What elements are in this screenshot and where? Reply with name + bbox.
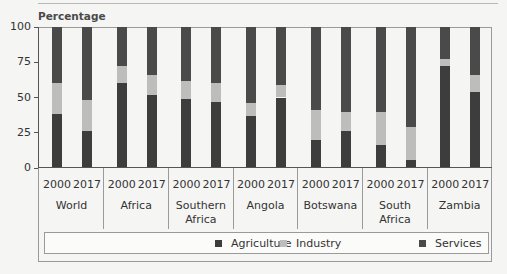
bar-segment-industry bbox=[147, 75, 157, 95]
bar-segment-industry bbox=[341, 112, 351, 132]
bar-segment-services bbox=[276, 27, 286, 85]
bar-segment-industry bbox=[82, 100, 92, 131]
bar-segment-industry bbox=[181, 81, 191, 99]
bar-segment-industry bbox=[276, 85, 286, 98]
year-label: 2000 bbox=[42, 178, 72, 191]
legend-item-industry: Industry bbox=[280, 237, 341, 250]
y-axis-title: Percentage bbox=[38, 10, 106, 22]
services-swatch-icon bbox=[419, 240, 426, 247]
bar-segment-services bbox=[147, 27, 157, 75]
y-tick bbox=[34, 132, 38, 133]
legend-label: Services bbox=[435, 237, 481, 250]
bar-segment-industry bbox=[440, 59, 450, 66]
legend: Agriculture Industry Services bbox=[44, 232, 489, 254]
bar-segment-services bbox=[246, 27, 256, 103]
bar-segment-agriculture bbox=[147, 95, 157, 168]
year-label: 2000 bbox=[236, 178, 266, 191]
bar-segment-services bbox=[440, 27, 450, 59]
bar-segment-services bbox=[211, 27, 221, 83]
year-label: 2017 bbox=[460, 178, 490, 191]
bar-segment-services bbox=[406, 27, 416, 127]
y-tick bbox=[34, 97, 38, 98]
year-label: 2017 bbox=[201, 178, 231, 191]
bar-segment-services bbox=[470, 27, 480, 75]
bar-segment-agriculture bbox=[211, 102, 221, 168]
bar-segment-agriculture bbox=[52, 114, 62, 168]
y-tick-label: 50 bbox=[0, 92, 31, 104]
bar-segment-agriculture bbox=[311, 140, 321, 168]
bar-segment-agriculture bbox=[117, 83, 127, 168]
legend-item-services: Services bbox=[419, 237, 481, 250]
bar-segment-agriculture bbox=[246, 116, 256, 168]
year-label: 2017 bbox=[72, 178, 102, 191]
agriculture-swatch-icon bbox=[215, 240, 222, 247]
y-tick-label: 100 bbox=[0, 21, 31, 33]
plot-area bbox=[39, 27, 492, 168]
bar-segment-agriculture bbox=[470, 92, 480, 168]
top-rule bbox=[38, 3, 498, 4]
industry-swatch-icon bbox=[280, 240, 287, 247]
group-label-southern-africa: SouthernAfrica bbox=[169, 199, 233, 227]
y-tick-label: 25 bbox=[0, 127, 31, 139]
group-label-zambia: Zambia bbox=[428, 199, 492, 213]
bar-segment-agriculture bbox=[376, 145, 386, 168]
group-label-botswana: Botswana bbox=[298, 199, 362, 213]
year-label: 2000 bbox=[430, 178, 460, 191]
bar-segment-industry bbox=[211, 83, 221, 101]
bar-segment-industry bbox=[117, 66, 127, 83]
bar-segment-industry bbox=[246, 103, 256, 116]
bar-segment-agriculture bbox=[440, 66, 450, 168]
bar-segment-agriculture bbox=[276, 98, 286, 169]
y-axis bbox=[38, 27, 39, 169]
y-tick bbox=[34, 27, 38, 28]
group-label-angola: Angola bbox=[234, 199, 298, 213]
group-label-africa: Africa bbox=[104, 199, 168, 213]
bar-segment-agriculture bbox=[82, 131, 92, 168]
year-label: 2017 bbox=[396, 178, 426, 191]
year-label: 2000 bbox=[366, 178, 396, 191]
bar-segment-services bbox=[376, 27, 386, 112]
bar-segment-industry bbox=[52, 83, 62, 114]
bar-segment-industry bbox=[376, 112, 386, 146]
bar-segment-services bbox=[82, 27, 92, 100]
bar-segment-services bbox=[52, 27, 62, 83]
group-label-world: World bbox=[40, 199, 104, 213]
bar-segment-services bbox=[181, 27, 191, 81]
bar-segment-agriculture bbox=[341, 131, 351, 168]
bar-segment-industry bbox=[311, 110, 321, 140]
year-label: 2017 bbox=[137, 178, 167, 191]
bar-segment-services bbox=[117, 27, 127, 66]
year-label: 2000 bbox=[301, 178, 331, 191]
y-tick-label: 75 bbox=[0, 56, 31, 68]
bar-segment-services bbox=[341, 27, 351, 112]
year-label: 2017 bbox=[266, 178, 296, 191]
bar-segment-industry bbox=[406, 127, 416, 159]
year-label: 2000 bbox=[107, 178, 137, 191]
y-tick bbox=[34, 62, 38, 63]
group-label-south-africa: SouthAfrica bbox=[363, 199, 427, 227]
bar-segment-industry bbox=[470, 75, 480, 92]
legend-label: Industry bbox=[296, 237, 341, 250]
y-tick-label: 0 bbox=[0, 162, 31, 174]
year-label: 2000 bbox=[171, 178, 201, 191]
bar-segment-agriculture bbox=[181, 99, 191, 168]
year-label: 2017 bbox=[331, 178, 361, 191]
bar-segment-services bbox=[311, 27, 321, 110]
